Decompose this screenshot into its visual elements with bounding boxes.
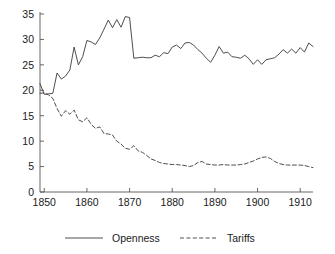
x-tick-label: 1900 xyxy=(246,196,270,208)
chart-container: 05101520253035 1850186018701880189019001… xyxy=(0,0,335,254)
y-tick-label: 5 xyxy=(28,160,34,172)
x-tick-label: 1890 xyxy=(203,196,227,208)
data-series xyxy=(40,17,313,168)
x-tick-label: 1850 xyxy=(33,196,57,208)
x-axis-ticks: 1850186018701880189019001910 xyxy=(33,188,312,208)
chart-axes xyxy=(40,12,313,192)
chart-legend: OpennessTariffs xyxy=(65,232,255,244)
series-line-tariffs xyxy=(40,93,313,168)
x-tick-label: 1870 xyxy=(118,196,142,208)
y-axis-ticks: 05101520253035 xyxy=(22,8,44,198)
x-tick-label: 1910 xyxy=(289,196,313,208)
series-line-openness xyxy=(40,17,313,95)
y-tick-label: 30 xyxy=(22,33,34,45)
x-tick-label: 1880 xyxy=(161,196,185,208)
y-tick-label: 20 xyxy=(22,84,34,96)
y-tick-label: 10 xyxy=(22,135,34,147)
legend-label-openness: Openness xyxy=(112,232,160,244)
y-tick-label: 15 xyxy=(22,110,34,122)
y-tick-label: 35 xyxy=(22,8,34,20)
line-chart: 05101520253035 1850186018701880189019001… xyxy=(0,0,335,254)
y-tick-label: 25 xyxy=(22,59,34,71)
x-tick-label: 1860 xyxy=(75,196,99,208)
legend-label-tariffs: Tariffs xyxy=(227,232,255,244)
